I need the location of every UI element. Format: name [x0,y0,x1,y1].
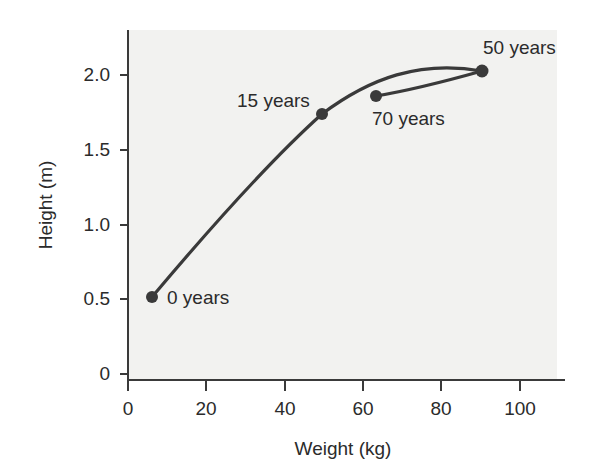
x-tick-label-100: 100 [504,398,536,420]
annotation-0-years: 0 years [167,287,229,309]
y-tick-label-0-5: 0.5 [58,288,110,310]
x-tick-label-60: 60 [352,398,373,420]
y-axis-title: Height (m) [35,161,57,250]
y-tick-label-0: 0 [58,363,110,385]
x-tick-label-0: 0 [123,398,134,420]
x-tick-label-80: 80 [430,398,451,420]
x-axis-title: Weight (kg) [295,438,392,460]
data-point-15-years [316,108,328,120]
annotation-15-years: 15 years [237,90,310,112]
y-tick-label-1-5: 1.5 [58,139,110,161]
data-point-0-years [146,291,158,303]
y-tick-label-1-0: 1.0 [58,214,110,236]
growth-chart-figure: 2.0 1.5 1.0 0.5 0 0 20 40 60 80 100 Weig… [0,0,598,476]
annotation-70-years: 70 years [372,108,445,130]
growth-curve-main [152,68,482,297]
x-tick-label-20: 20 [195,398,216,420]
annotation-50-years: 50 years [483,37,556,59]
x-tick-label-40: 40 [274,398,295,420]
y-tick-label-2-0: 2.0 [58,64,110,86]
data-point-70-years [370,90,382,102]
data-point-50-years [476,65,489,78]
